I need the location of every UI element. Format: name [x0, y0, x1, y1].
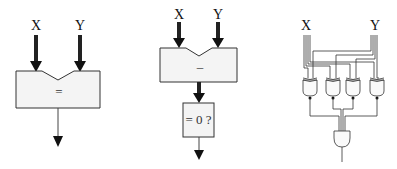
- input-y-label: Y: [75, 18, 85, 33]
- input-y-label: Y: [370, 18, 380, 33]
- xnor-gate-icon: [346, 78, 360, 100]
- input-x-label: X: [301, 18, 311, 33]
- xnor-gate-icon: [303, 78, 317, 100]
- input-x-arrow-icon: [30, 35, 42, 72]
- input-x-label: X: [174, 7, 184, 22]
- input-y-label: Y: [213, 7, 223, 22]
- x-bus-wires: [304, 35, 374, 78]
- connect-arrow-icon: [193, 82, 205, 103]
- input-y-arrow-icon: [212, 22, 224, 48]
- and-input-wires: [310, 98, 377, 131]
- output-arrow-icon: [194, 137, 204, 160]
- xnor-gate-icon: [326, 78, 340, 100]
- subtract-zero-test-diagram: X Y – = 0 ?: [160, 7, 237, 160]
- gate-level-comparator-diagram: X Y: [301, 18, 384, 162]
- y-bus-wires: [313, 35, 379, 78]
- operator-label: =: [55, 84, 62, 99]
- equality-block-diagram: X Y =: [16, 18, 100, 147]
- output-arrow-icon: [53, 108, 63, 147]
- input-x-arrow-icon: [173, 22, 185, 48]
- operator-label: –: [196, 59, 204, 74]
- and-gate-icon: [334, 131, 350, 147]
- xnor-gate-icon: [370, 78, 384, 100]
- zero-test-label: = 0 ?: [185, 112, 211, 127]
- input-y-arrow-icon: [74, 35, 86, 72]
- diagram-canvas: X Y = X Y –: [0, 0, 397, 169]
- input-x-label: X: [31, 18, 41, 33]
